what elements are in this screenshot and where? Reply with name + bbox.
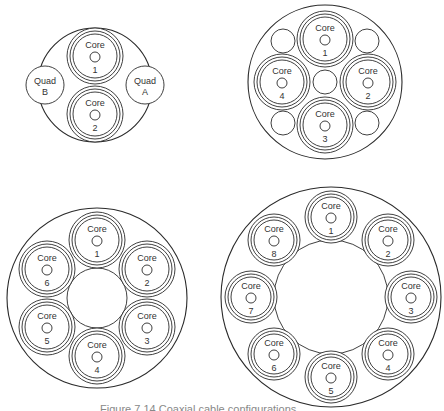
core-label: Core	[85, 98, 105, 108]
filler-circle	[271, 29, 295, 53]
core-number: 5	[44, 336, 49, 346]
core-number: 6	[44, 278, 49, 288]
core-number: 8	[271, 249, 276, 259]
filler-circle	[313, 70, 337, 94]
core-conductor	[142, 265, 152, 275]
figure-canvas: QuadBQuadACore1Core2Core1Core2Core3Core4…	[0, 0, 444, 411]
core-conductor	[269, 236, 279, 246]
core-number: 1	[92, 65, 97, 75]
core-5: Core5	[305, 351, 357, 403]
core-label: Core	[264, 338, 284, 348]
core-number: 1	[94, 249, 99, 259]
core-label: Core	[378, 224, 398, 234]
core-conductor	[383, 236, 393, 246]
core-number: 1	[328, 226, 333, 236]
core-conductor	[326, 373, 336, 383]
core-label: Core	[137, 253, 157, 263]
core-conductor	[277, 78, 287, 88]
core-number: 4	[279, 91, 284, 101]
cable-two-core: QuadBQuadACore1Core2	[26, 28, 164, 142]
cable-six-core: Core1Core2Core3Core4Core5Core6	[7, 208, 187, 388]
core-number: 2	[144, 278, 149, 288]
core-4: Core4	[69, 328, 125, 384]
core-label: Core	[401, 281, 421, 291]
quad-a: QuadA	[126, 66, 164, 104]
core-conductor	[92, 236, 102, 246]
core-conductor	[363, 78, 373, 88]
core-6: Core6	[19, 241, 75, 297]
core-4: Core4	[254, 54, 310, 110]
core-label: Core	[87, 340, 107, 350]
quad-letter: B	[42, 87, 48, 97]
filler-circle	[355, 111, 379, 135]
core-1: Core1	[297, 11, 353, 67]
core-2: Core2	[119, 241, 175, 297]
core-4: Core4	[362, 328, 414, 380]
core-conductor	[320, 121, 330, 131]
core-conductor	[142, 323, 152, 333]
core-label: Core	[358, 66, 378, 76]
filler-circle	[271, 111, 295, 135]
core-label: Core	[315, 109, 335, 119]
core-1: Core1	[305, 191, 357, 243]
core-label: Core	[87, 224, 107, 234]
core-conductor	[42, 265, 52, 275]
filler-circle	[355, 29, 379, 53]
core-2: Core2	[362, 214, 414, 266]
cable-eight-core: Core1Core2Core3Core4Core5Core6Core7Core8	[221, 187, 441, 407]
quad-b: QuadB	[26, 66, 64, 104]
core-6: Core6	[248, 328, 300, 380]
core-8: Core8	[248, 214, 300, 266]
core-number: 1	[322, 48, 327, 58]
core-conductor	[269, 350, 279, 360]
quad-label: Quad	[34, 76, 56, 86]
core-conductor	[90, 52, 100, 62]
core-label: Core	[321, 361, 341, 371]
core-label: Core	[37, 311, 57, 321]
core-label: Core	[272, 66, 292, 76]
core-label: Core	[85, 40, 105, 50]
core-number: 2	[365, 91, 370, 101]
core-3: Core3	[297, 97, 353, 153]
core-label: Core	[315, 23, 335, 33]
cable-four-core: Core1Core2Core3Core4	[248, 5, 402, 159]
quad-label: Quad	[134, 76, 156, 86]
core-number: 6	[271, 363, 276, 373]
quad-letter: A	[142, 87, 148, 97]
filler-circle	[67, 268, 127, 328]
core-3: Core3	[119, 299, 175, 355]
core-conductor	[383, 350, 393, 360]
core-number: 5	[328, 386, 333, 396]
core-label: Core	[37, 253, 57, 263]
core-number: 4	[94, 365, 99, 375]
core-conductor	[92, 352, 102, 362]
core-conductor	[320, 35, 330, 45]
core-1: Core1	[69, 212, 125, 268]
core-3: Core3	[385, 271, 437, 323]
core-conductor	[406, 293, 416, 303]
core-conductor	[42, 323, 52, 333]
core-number: 7	[248, 306, 253, 316]
core-label: Core	[378, 338, 398, 348]
core-label: Core	[241, 281, 261, 291]
core-label: Core	[321, 201, 341, 211]
core-label: Core	[137, 311, 157, 321]
core-2: Core2	[67, 86, 123, 142]
core-5: Core5	[19, 299, 75, 355]
core-7: Core7	[225, 271, 277, 323]
core-conductor	[326, 213, 336, 223]
core-label: Core	[264, 224, 284, 234]
core-conductor	[90, 110, 100, 120]
core-1: Core1	[67, 28, 123, 84]
core-2: Core2	[340, 54, 396, 110]
core-conductor	[246, 293, 256, 303]
core-number: 3	[408, 306, 413, 316]
core-number: 2	[92, 123, 97, 133]
figure-caption: Figure 7.14 Coaxial cable configurations	[100, 402, 400, 411]
core-number: 2	[385, 249, 390, 259]
core-number: 4	[385, 363, 390, 373]
core-number: 3	[144, 336, 149, 346]
cable-diagrams: QuadBQuadACore1Core2Core1Core2Core3Core4…	[0, 0, 444, 411]
core-number: 3	[322, 134, 327, 144]
